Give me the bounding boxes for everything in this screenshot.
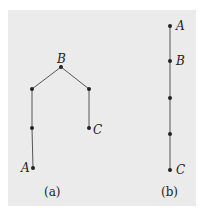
edge — [32, 67, 61, 89]
label-c: C — [93, 123, 102, 137]
label-b: B — [56, 52, 66, 66]
label-b: B — [175, 54, 185, 68]
node — [168, 132, 172, 136]
caption-b: (b) — [161, 185, 178, 199]
node-a — [31, 166, 35, 170]
node-c — [168, 168, 172, 172]
tree-diagrams: B A C (a) A B C (b) — [0, 0, 202, 215]
node-a — [168, 24, 172, 28]
edge — [61, 67, 89, 89]
node — [168, 96, 172, 100]
diagram-a: B A C (a) — [20, 52, 102, 199]
node — [87, 87, 91, 91]
label-a: A — [20, 161, 30, 175]
node — [30, 126, 34, 130]
caption-a: (a) — [44, 185, 61, 199]
edge — [32, 128, 33, 168]
node-b — [168, 59, 172, 63]
label-a: A — [175, 19, 185, 33]
diagram-b: A B C (b) — [161, 19, 185, 199]
label-c: C — [176, 163, 185, 177]
node — [30, 87, 34, 91]
node-c — [87, 126, 91, 130]
